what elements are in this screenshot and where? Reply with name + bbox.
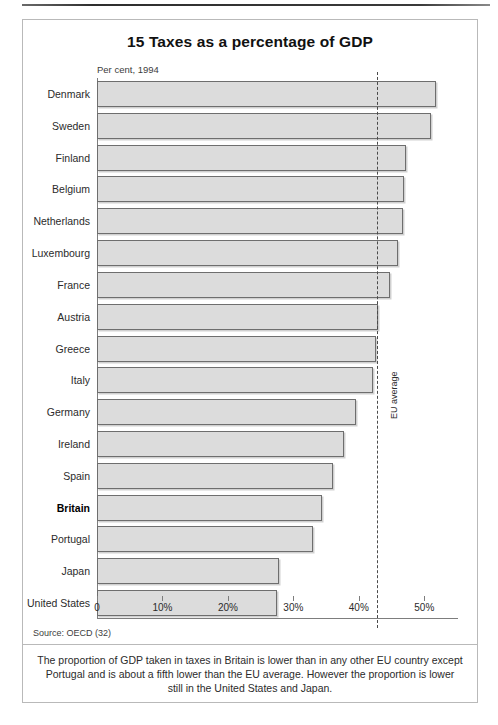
category-label: Luxembourg: [32, 240, 90, 266]
x-tick-mark: [162, 596, 163, 601]
x-tick-label: 0: [94, 602, 100, 613]
bar: [97, 208, 403, 234]
bar: [97, 463, 333, 489]
bar-row: Belgium: [97, 176, 457, 202]
bar-row: Japan: [97, 558, 457, 584]
category-label: Germany: [47, 399, 90, 425]
bar-row: Greece: [97, 336, 457, 362]
x-tick-label: 40%: [349, 602, 369, 613]
category-label: Finland: [56, 145, 90, 171]
bar-row: Netherlands: [97, 208, 457, 234]
eu-average-line: [377, 72, 378, 628]
x-tick-mark: [228, 596, 229, 601]
bar-row: Finland: [97, 145, 457, 171]
bar-row: France: [97, 272, 457, 298]
x-tick-mark: [97, 596, 98, 601]
bar-row: Britain: [97, 495, 457, 521]
category-label: United States: [27, 590, 90, 616]
chart-subtitle: Per cent, 1994: [97, 64, 159, 75]
x-axis-ticks: 010%20%30%40%50%: [97, 596, 458, 620]
bar: [97, 272, 390, 298]
bar: [97, 81, 436, 107]
x-tick-mark: [424, 596, 425, 601]
bar-row: Ireland: [97, 431, 457, 457]
chart-title: 15 Taxes as a percentage of GDP: [23, 33, 477, 51]
chart-figure: 15 Taxes as a percentage of GDP Per cent…: [22, 19, 478, 645]
bar: [97, 526, 313, 552]
bar: [97, 367, 373, 393]
bar-row: Austria: [97, 304, 457, 330]
category-label: Sweden: [52, 113, 90, 139]
plot-area: DenmarkSwedenFinlandBelgiumNetherlandsLu…: [97, 78, 457, 619]
bar-row: Spain: [97, 463, 457, 489]
category-label: Britain: [57, 495, 90, 521]
category-label: Netherlands: [33, 208, 90, 234]
category-label: Japan: [61, 558, 90, 584]
bar: [97, 304, 378, 330]
x-tick-label: 10%: [152, 602, 172, 613]
bar: [97, 431, 344, 457]
bar: [97, 336, 376, 362]
category-label: Portugal: [51, 526, 90, 552]
bar-row: Italy: [97, 367, 457, 393]
bar-row: Luxembourg: [97, 240, 457, 266]
category-label: Austria: [57, 304, 90, 330]
page-top-rule: [22, 4, 490, 6]
category-label: Denmark: [47, 81, 90, 107]
x-tick-label: 50%: [414, 602, 434, 613]
x-tick-label: 20%: [218, 602, 238, 613]
bar: [97, 558, 279, 584]
bar-row: Sweden: [97, 113, 457, 139]
bar-row: Germany: [97, 399, 457, 425]
x-tick-mark: [293, 596, 294, 601]
x-tick-label: 30%: [283, 602, 303, 613]
bar-rows: DenmarkSwedenFinlandBelgiumNetherlandsLu…: [97, 78, 457, 619]
bar-row: Denmark: [97, 81, 457, 107]
category-label: Greece: [56, 336, 90, 362]
bar: [97, 399, 356, 425]
caption-box: The proportion of GDP taken in taxes in …: [22, 645, 478, 703]
bar-row: Portugal: [97, 526, 457, 552]
category-label: Italy: [71, 367, 90, 393]
category-label: Spain: [63, 463, 90, 489]
eu-average-label: EU average: [389, 371, 399, 419]
bar: [97, 145, 406, 171]
caption-text: The proportion of GDP taken in taxes in …: [23, 653, 477, 695]
bar: [97, 495, 322, 521]
category-label: France: [57, 272, 90, 298]
bar: [97, 176, 404, 202]
bar: [97, 113, 431, 139]
category-label: Belgium: [52, 176, 90, 202]
bar: [97, 240, 398, 266]
x-tick-mark: [359, 596, 360, 601]
source-note: Source: OECD (32): [33, 628, 111, 638]
category-label: Ireland: [58, 431, 90, 457]
